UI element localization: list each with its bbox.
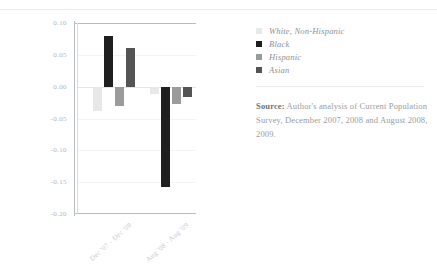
gridline bbox=[78, 182, 196, 183]
chart-panel: 0.100.050.00-0.05-0.10-0.15-0.20 Dec '07… bbox=[0, 0, 240, 274]
legend-item[interactable]: Asian bbox=[256, 63, 428, 76]
chart-legend: White, Non-HispanicBlackHispanicAsian bbox=[256, 24, 428, 76]
axis-bottom-line bbox=[74, 213, 196, 214]
legend-item-label: Asian bbox=[269, 65, 289, 75]
gridline bbox=[78, 119, 196, 120]
legend-and-source-panel: White, Non-HispanicBlackHispanicAsian So… bbox=[256, 24, 428, 141]
y-axis-tick-label: -0.05 bbox=[50, 115, 67, 123]
legend-item-label: Hispanic bbox=[269, 52, 301, 62]
legend-item[interactable]: White, Non-Hispanic bbox=[256, 24, 428, 37]
x-axis-tick-label: Aug '08 - Aug '09 bbox=[144, 221, 190, 264]
legend-item[interactable]: Black bbox=[256, 37, 428, 50]
legend-item[interactable]: Hispanic bbox=[256, 50, 428, 63]
y-axis-tick-label: -0.15 bbox=[50, 178, 67, 186]
bar bbox=[93, 87, 102, 111]
bar bbox=[115, 87, 124, 106]
gridline bbox=[78, 150, 196, 151]
axis-left-line bbox=[74, 21, 75, 216]
legend-item-label: White, Non-Hispanic bbox=[269, 26, 345, 36]
source-note: Source: Author's analysis of Current Pop… bbox=[256, 99, 428, 141]
legend-source-divider bbox=[256, 86, 424, 87]
legend-swatch-icon bbox=[256, 54, 262, 60]
axis-top-line bbox=[74, 23, 196, 24]
source-label: Source: bbox=[256, 101, 285, 111]
y-axis-tick-label: 0.10 bbox=[53, 19, 67, 27]
bar bbox=[126, 48, 135, 87]
bar bbox=[183, 87, 192, 97]
legend-swatch-icon bbox=[256, 41, 262, 47]
plot-area: 0.100.050.00-0.05-0.10-0.15-0.20 Dec '07… bbox=[74, 23, 196, 214]
legend-swatch-icon bbox=[256, 28, 262, 34]
bar bbox=[104, 36, 113, 86]
x-axis-tick-label: Dec '07 - Dec '08 bbox=[88, 221, 133, 263]
chart-figure: 0.100.050.00-0.05-0.10-0.15-0.20 Dec '07… bbox=[0, 0, 437, 274]
bar bbox=[150, 87, 159, 95]
legend-swatch-icon bbox=[256, 67, 262, 73]
bar bbox=[172, 87, 181, 105]
y-axis-tick-label: 0.05 bbox=[53, 51, 67, 59]
y-axis-tick-label: -0.20 bbox=[50, 210, 67, 218]
gridline bbox=[78, 55, 196, 56]
y-axis-tick-label: 0.00 bbox=[53, 83, 67, 91]
y-axis-tick-label: -0.10 bbox=[50, 146, 67, 154]
legend-item-label: Black bbox=[269, 39, 289, 49]
bar bbox=[161, 87, 170, 188]
